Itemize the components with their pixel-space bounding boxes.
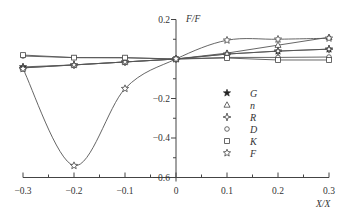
data-point-F: [223, 36, 230, 43]
legend-item-K: K: [225, 136, 258, 147]
legend-label: G: [250, 88, 257, 99]
legend-item-D: D: [225, 124, 258, 135]
x-tick-label: 0.1: [221, 186, 233, 196]
x-axis-label: X/X: [315, 199, 331, 209]
legend-item-R: R: [223, 112, 256, 123]
data-point-R: [70, 61, 78, 69]
legend-label: D: [249, 124, 258, 135]
data-point-R: [274, 47, 282, 55]
legend-marker-G: [223, 89, 230, 96]
data-point-F: [325, 34, 332, 41]
legend-label: K: [249, 136, 258, 147]
y-axis-label: F/F: [185, 14, 200, 24]
legend-marker-R: [223, 113, 231, 121]
legend-item-G: G: [223, 88, 257, 99]
legend-item-F: F: [223, 148, 257, 159]
x-tick-label: −0.3: [14, 186, 31, 196]
legend-marker-n: [224, 102, 230, 107]
x-tick-label: −0.2: [65, 186, 82, 196]
x-tick-label: −0.1: [116, 186, 133, 196]
legend-marker-D: [225, 127, 230, 132]
data-point-K: [21, 53, 26, 58]
legend-marker-F: [223, 149, 230, 156]
legend-label: F: [249, 148, 257, 159]
x-tick-label: 0.2: [272, 186, 284, 196]
y-tick-label: 0.2: [158, 15, 170, 25]
data-point-K: [276, 58, 281, 63]
y-tick-label: −0.4: [153, 133, 170, 143]
legend-label: R: [249, 112, 256, 123]
legend-label: n: [250, 100, 255, 111]
data-point-F: [70, 162, 77, 169]
data-point-K: [72, 55, 77, 60]
chart: −0.3−0.2−0.100.10.20.30.2−0.2−0.4−0.6 Gn…: [0, 0, 349, 220]
legend-item-n: n: [224, 100, 255, 111]
data-point-R: [325, 45, 333, 53]
axes: −0.3−0.2−0.100.10.20.30.2−0.2−0.4−0.6: [14, 15, 335, 196]
legend-marker-K: [225, 139, 230, 144]
y-tick-label: −0.2: [153, 94, 170, 104]
legend: GnRDKF: [223, 88, 258, 159]
data-point-F: [274, 35, 281, 42]
data-point-K: [327, 58, 332, 63]
x-tick-label: 0.3: [323, 186, 335, 196]
data-point-K: [225, 56, 230, 61]
data-point-K: [123, 55, 128, 60]
y-tick-label: −0.6: [153, 173, 170, 183]
x-tick-label: 0: [174, 186, 179, 196]
